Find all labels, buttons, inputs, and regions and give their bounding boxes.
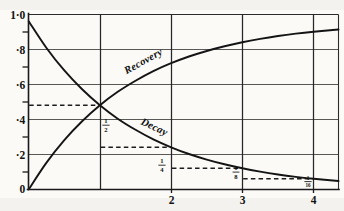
xlabel-3: 3 bbox=[240, 194, 246, 206]
ylabel-1-0: 1·0 bbox=[10, 9, 25, 21]
fraction-quarter-denominator: 4 bbox=[160, 166, 164, 173]
ylabel-0-4: ·4 bbox=[16, 114, 26, 126]
fraction-half-numerator: 1 bbox=[104, 117, 107, 124]
exponential-decay-recovery-chart: 1·0 ·8 ·6 ·4 ·2 0 2 3 4 Recovery Decay 1… bbox=[0, 0, 344, 211]
ylabel-0-2: ·2 bbox=[16, 149, 26, 161]
recovery-curve-label: Recovery bbox=[121, 46, 164, 77]
fraction-eighth-denominator: 8 bbox=[234, 173, 238, 180]
curve-labels: Recovery Decay bbox=[121, 46, 169, 138]
fraction-half-denominator: 2 bbox=[104, 126, 108, 133]
ylabel-0: 0 bbox=[19, 183, 25, 195]
fraction-one-quarter: 1 4 bbox=[158, 157, 165, 173]
fraction-quarter-numerator: 1 bbox=[160, 157, 163, 164]
ylabel-0-8: ·8 bbox=[16, 44, 26, 56]
chart-container: 1·0 ·8 ·6 ·4 ·2 0 2 3 4 Recovery Decay 1… bbox=[0, 0, 344, 211]
ylabel-0-6: ·6 bbox=[16, 79, 26, 91]
fraction-eighth-numerator: 1 bbox=[234, 164, 237, 171]
fraction-sixteenth-denominator: 16 bbox=[305, 182, 311, 188]
recovery-curve bbox=[29, 29, 339, 189]
plot-frame bbox=[29, 15, 339, 190]
xlabel-2: 2 bbox=[169, 194, 175, 206]
x-axis-labels: 2 3 4 bbox=[169, 194, 317, 206]
fraction-one-eighth: 1 8 bbox=[233, 164, 240, 180]
xlabel-4: 4 bbox=[311, 194, 317, 206]
fraction-sixteenth-numerator: 1 bbox=[307, 175, 310, 181]
decay-curve bbox=[29, 21, 339, 181]
horizontal-gridlines bbox=[29, 50, 339, 155]
vertical-gridlines bbox=[101, 15, 314, 190]
axes bbox=[28, 14, 340, 190]
